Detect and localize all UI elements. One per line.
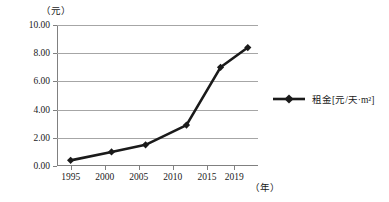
x-tick-label: 1995 [61,172,80,182]
x-axis-unit-label: （年） [250,180,280,194]
legend-marker-icon [272,93,306,105]
plot-area: 0.002.004.006.008.0010.00 19952000200520… [57,25,258,166]
x-tick-label: 2010 [163,172,182,182]
data-point-marker [67,157,74,164]
x-tick-mark [139,166,140,170]
data-series-layer [57,25,258,166]
y-tick-label: 4.00 [33,105,50,115]
y-tick-label: 0.00 [33,161,50,171]
line-chart: （元） 0.002.004.006.008.0010.00 1995200020… [0,0,389,202]
legend-label-rent: 租金[元/天·m²] [312,92,374,106]
data-point-marker [108,148,115,155]
y-tick-mark [53,166,57,167]
y-axis-unit-label: （元） [41,3,71,17]
x-tick-label: 2015 [197,172,216,182]
x-tick-label: 2019 [225,172,244,182]
x-tick-mark [207,166,208,170]
y-tick-label: 2.00 [33,133,50,143]
chart-legend: 租金[元/天·m²] [272,92,374,106]
y-tick-label: 8.00 [33,48,50,58]
x-tick-mark [173,166,174,170]
x-tick-mark [234,166,235,170]
y-tick-label: 10.00 [29,20,50,30]
x-tick-mark [105,166,106,170]
x-tick-label: 2000 [95,172,114,182]
y-tick-label: 6.00 [33,76,50,86]
x-tick-label: 2005 [129,172,148,182]
x-tick-mark [71,166,72,170]
